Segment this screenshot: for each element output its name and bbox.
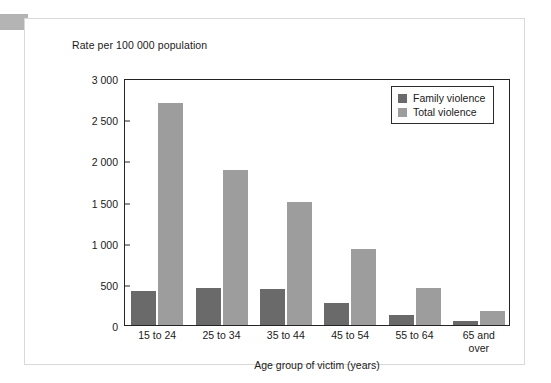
- bar-total-violence: [416, 288, 441, 325]
- y-axis-tick-label: 2 500: [92, 115, 125, 127]
- legend-label: Family violence: [413, 92, 485, 104]
- bar-family-violence: [324, 303, 349, 325]
- y-axis-tick-label: 500: [100, 280, 125, 292]
- y-axis-title: Rate per 100 000 population: [72, 39, 207, 51]
- x-axis-tick-label: 65 andover: [463, 329, 495, 355]
- bar-family-violence: [196, 288, 221, 325]
- bar-group: [131, 80, 183, 325]
- bar-family-violence: [389, 315, 414, 325]
- x-axis-tick-label: 55 to 64: [396, 329, 434, 342]
- bar-group: [260, 80, 312, 325]
- x-axis-tick-label: 25 to 34: [203, 329, 241, 342]
- bar-total-violence: [158, 103, 183, 325]
- bar-family-violence: [260, 289, 285, 325]
- plot-area: 05001 0001 5002 0002 5003 000 15 to 2425…: [124, 79, 510, 326]
- x-axis-tick-label: 35 to 44: [267, 329, 305, 342]
- y-axis-tick-label: 1 000: [92, 239, 125, 251]
- y-axis-tick-label: 1 500: [92, 198, 125, 210]
- legend-swatch-total-violence: [398, 108, 407, 117]
- x-axis-tick-label: 45 to 54: [331, 329, 369, 342]
- y-axis-tick-label: 2 000: [92, 156, 125, 168]
- y-axis-tick-label: 3 000: [92, 74, 125, 86]
- bar-family-violence: [453, 321, 478, 325]
- figure-card: Rate per 100 000 population 05001 0001 5…: [24, 18, 525, 365]
- chart-legend: Family violenceTotal violence: [391, 86, 494, 124]
- bar-total-violence: [480, 311, 505, 325]
- y-axis-tick-label: 0: [112, 321, 125, 333]
- bar-total-violence: [287, 202, 312, 325]
- legend-entry: Family violence: [398, 91, 485, 105]
- x-axis-tick-label: 15 to 24: [138, 329, 176, 342]
- bar-group: [324, 80, 376, 325]
- bar-family-violence: [131, 291, 156, 325]
- legend-label: Total violence: [413, 106, 477, 118]
- x-axis-title: Age group of victim (years): [124, 359, 510, 371]
- bar-total-violence: [351, 249, 376, 325]
- bar-group: [196, 80, 248, 325]
- legend-entry: Total violence: [398, 105, 485, 119]
- legend-swatch-family-violence: [398, 94, 407, 103]
- bar-total-violence: [223, 170, 248, 325]
